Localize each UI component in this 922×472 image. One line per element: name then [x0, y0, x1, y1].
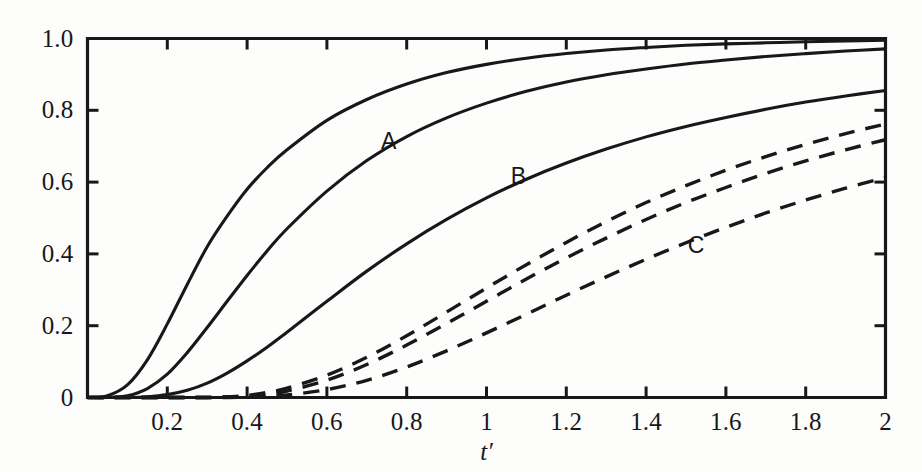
x-tick-label: 0.2: [151, 408, 183, 436]
x-tick-label: 1.2: [550, 408, 582, 436]
curve-b: [88, 49, 886, 398]
x-axis-title: t′: [480, 438, 492, 466]
curve-f: [88, 177, 886, 397]
figure-container: 00.20.40.60.81.0 0.20.40.60.811.21.41.61…: [0, 0, 922, 472]
y-tick-label: 1.0: [0, 25, 74, 53]
axis-frame-path: [88, 39, 886, 398]
axis-frame: [88, 39, 886, 398]
y-tick-label: 0.2: [0, 312, 74, 340]
curve-d: [88, 124, 886, 398]
plot-canvas: [0, 0, 922, 472]
x-tick-label: 1.8: [790, 408, 822, 436]
y-tick-label: 0: [0, 384, 74, 412]
x-tick-label: 1.4: [630, 408, 662, 436]
y-tick-label: 0.4: [0, 240, 74, 268]
curve-label-b: B: [511, 163, 526, 190]
curve-e: [88, 140, 886, 398]
x-tick-label: 1.6: [710, 408, 742, 436]
y-tick-label: 0.6: [0, 168, 74, 196]
x-tick-label: 0.8: [391, 408, 423, 436]
curve-label-c: C: [688, 231, 705, 258]
curve-a: [88, 40, 886, 397]
axis-ticks: [88, 39, 886, 398]
x-tick-label: 0.6: [311, 408, 343, 436]
x-tick-label: 1: [480, 408, 493, 436]
x-tick-label: 0.4: [231, 408, 263, 436]
curve-paths: [88, 40, 886, 397]
x-tick-label: 2: [879, 408, 892, 436]
curve-label-a: A: [381, 127, 396, 154]
y-tick-label: 0.8: [0, 96, 74, 124]
